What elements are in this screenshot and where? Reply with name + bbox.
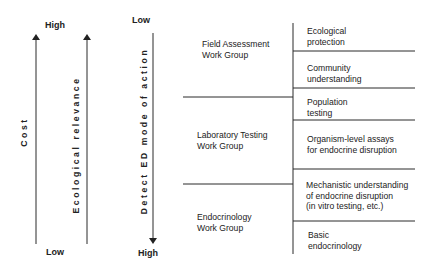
- level-population-testing: Population testing: [307, 97, 348, 118]
- cost-low-label: Low: [46, 247, 64, 257]
- level-community-understanding: Community understanding: [307, 63, 361, 84]
- detect-high-label: High: [138, 248, 158, 258]
- work-group-laboratory: Laboratory Testing Work Group: [197, 130, 268, 151]
- work-group-endocrinology: Endocrinology Work Group: [197, 212, 251, 233]
- level-ecological-protection: Ecological protection: [307, 26, 346, 47]
- level-organism-assays: Organism-level assays for endocrine disr…: [307, 134, 397, 155]
- cost-high-label: High: [45, 20, 65, 30]
- level-basic-endocrinology: Basic endocrinology: [308, 230, 362, 251]
- ecological-relevance-label: Ecological relevance: [71, 75, 81, 215]
- level-mechanistic-understanding: Mechanistic understanding of endocrine d…: [306, 180, 408, 212]
- cost-axis-label: Cost: [19, 106, 29, 158]
- detect-low-label: Low: [132, 15, 150, 25]
- work-group-field: Field Assessment Work Group: [202, 39, 269, 60]
- detect-ed-label: Detect ED mode of action: [139, 39, 149, 223]
